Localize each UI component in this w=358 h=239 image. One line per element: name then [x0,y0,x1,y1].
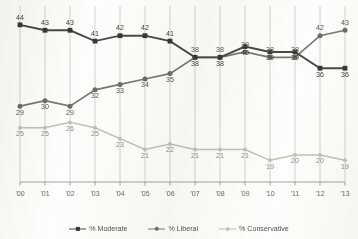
data-point-conservative [268,158,272,162]
legend-label-moderate: % Moderate [89,225,127,233]
data-label-moderate: 41 [166,30,174,38]
data-label-moderate: 39 [291,54,299,62]
data-point-moderate [93,39,98,44]
data-label-liberal: 33 [116,87,124,95]
data-label-conservative: 21 [191,152,199,160]
data-point-conservative [343,158,347,162]
legend-marker-conservative-icon [219,225,236,233]
data-label-conservative: 19 [266,163,274,171]
legend-marker-liberal-icon [148,225,165,233]
series-markers [18,22,348,162]
x-tick-label: '08 [215,190,224,198]
data-label-conservative: 23 [116,141,124,149]
data-label-moderate: 38 [191,60,199,68]
data-label-liberal: 38 [216,46,224,54]
chart-plot-area: 2525262523212221212119202019293029323334… [0,0,358,208]
x-tick-label: '03 [90,190,99,198]
data-label-conservative: 25 [16,130,24,138]
x-tick-label: '04 [115,190,124,198]
data-label-moderate: 43 [66,19,74,27]
data-label-moderate: 36 [341,71,349,79]
series-line-liberal [20,30,345,106]
data-label-moderate: 42 [116,24,124,32]
data-label-moderate: 43 [41,19,49,27]
data-point-conservative [118,137,122,141]
legend-item-moderate[interactable]: % Moderate [69,225,127,233]
legend-item-conservative[interactable]: % Conservative [219,225,289,233]
data-point-conservative [193,147,197,151]
data-label-conservative: 26 [66,125,74,133]
data-label-liberal: 34 [141,81,149,89]
x-axis [20,182,345,186]
legend-item-liberal[interactable]: % Liberal [148,225,198,233]
data-label-liberal: 38 [191,46,199,54]
data-label-moderate: 39 [266,54,274,62]
data-label-liberal: 30 [41,103,49,111]
data-label-liberal: 29 [16,109,24,117]
data-point-conservative [93,126,97,130]
data-label-moderate: 40 [241,49,249,57]
x-tick-label: '05 [140,190,149,198]
data-label-moderate: 44 [16,14,24,22]
data-point-conservative [218,147,222,151]
line-chart: 2525262523212221212119202019293029323334… [0,0,358,239]
data-point-moderate [143,33,148,38]
data-label-conservative: 21 [241,152,249,160]
data-label-conservative: 25 [91,130,99,138]
x-tick-label: '13 [340,190,349,198]
data-label-liberal: 32 [91,92,99,100]
data-point-moderate [118,33,123,38]
data-point-conservative [243,147,247,151]
data-label-liberal: 38 [291,46,299,54]
x-tick-label: '10 [265,190,274,198]
data-label-moderate: 38 [216,60,224,68]
data-point-conservative [143,147,147,151]
x-tick-label: '00 [15,190,24,198]
data-label-liberal: 43 [341,19,349,27]
data-label-liberal: 39 [241,41,249,49]
data-label-conservative: 21 [141,152,149,160]
data-label-liberal: 35 [166,76,174,84]
x-tick-label: '01 [40,190,49,198]
data-point-conservative [318,153,322,157]
data-point-moderate [68,28,73,33]
legend-label-liberal: % Liberal [168,225,198,233]
data-point-conservative [18,126,22,130]
data-label-conservative: 20 [316,157,324,165]
data-point-conservative [43,126,47,130]
legend-label-conservative: % Conservative [239,225,289,233]
data-point-liberal [318,33,323,38]
data-label-liberal: 29 [66,109,74,117]
data-point-liberal [343,28,348,33]
data-label-moderate: 41 [91,30,99,38]
data-label-liberal: 38 [266,46,274,54]
data-point-conservative [168,142,172,146]
data-point-moderate [168,39,173,44]
x-axis-tick-labels: '00'01'02'03'04'05'06'07'08'09'10'11'12'… [15,190,349,198]
x-tick-label: '06 [165,190,174,198]
legend-marker-moderate-icon [69,225,86,233]
data-point-conservative [293,153,297,157]
data-label-liberal: 42 [316,24,324,32]
data-label-moderate: 42 [141,24,149,32]
data-label-conservative: 20 [291,157,299,165]
data-point-moderate [18,22,23,27]
x-tick-label: '12 [315,190,324,198]
x-tick-label: '09 [240,190,249,198]
x-tick-label: '02 [65,190,74,198]
data-point-moderate [43,28,48,33]
data-label-conservative: 25 [41,130,49,138]
data-label-conservative: 21 [216,152,224,160]
data-label-moderate: 36 [316,71,324,79]
x-tick-label: '11 [291,190,300,198]
data-point-conservative [68,120,72,124]
chart-legend: % Moderate % Liberal % Conservative [0,225,358,233]
data-label-conservative: 22 [166,146,174,154]
x-tick-label: '07 [190,190,199,198]
data-label-conservative: 19 [341,163,349,171]
